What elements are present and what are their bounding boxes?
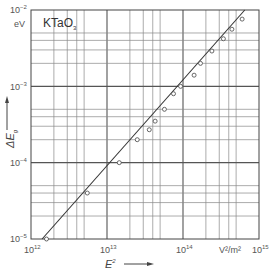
- data-point: [179, 84, 183, 88]
- data-point: [240, 17, 244, 21]
- y-tick-1e-5: 10−5: [10, 233, 28, 244]
- x-tick-1e15: 1015: [252, 244, 269, 255]
- y-tick-1e-4: 10−4: [10, 157, 28, 168]
- data-point: [85, 191, 89, 195]
- data-point: [162, 107, 166, 111]
- y-axis-arrow-icon: [5, 96, 9, 130]
- y-axis-label: ΔEg: [4, 129, 18, 149]
- data-point: [230, 27, 234, 31]
- grid: [31, 10, 259, 239]
- data-point: [153, 119, 157, 123]
- y-tick-1e-3: 10−3: [10, 81, 28, 92]
- svg-text:ΔEg: ΔEg: [4, 129, 18, 149]
- data-point: [135, 138, 139, 142]
- data-point: [117, 161, 121, 165]
- x-axis-label: E2: [105, 258, 116, 270]
- plot-frame: [31, 10, 259, 239]
- y-unit: eV: [14, 19, 25, 29]
- data-point: [210, 49, 214, 53]
- data-point: [147, 128, 151, 132]
- data-point: [221, 37, 225, 41]
- data-point: [172, 92, 176, 96]
- x-tick-1e13: 1013: [100, 244, 117, 255]
- x-tick-1e12: 1012: [24, 244, 41, 255]
- chart-figure: KTaO3 10−2 eV 10−3 10−4 10−5 ΔEg 1012 10…: [0, 0, 270, 271]
- x-unit: V²/m²: [219, 245, 241, 255]
- data-point: [199, 61, 203, 65]
- data-point: [192, 73, 196, 77]
- x-axis-arrow-icon: [124, 262, 154, 266]
- x-tick-1e14: 1014: [176, 244, 193, 255]
- y-tick-1e-2: 10−2: [10, 4, 28, 15]
- chart-title: KTaO3: [43, 16, 77, 31]
- data-point: [45, 237, 49, 241]
